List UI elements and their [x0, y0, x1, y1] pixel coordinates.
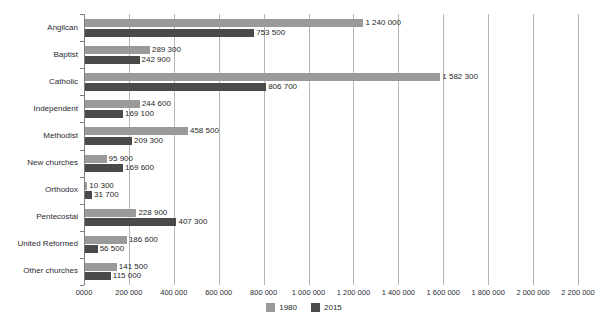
- bar-value-label: 115 000: [113, 272, 141, 280]
- x-tick-label: 400 000: [160, 288, 187, 297]
- bar-independent-1980: [85, 100, 140, 108]
- category-tick: [80, 14, 84, 15]
- category-label-united-reformed: United Reformed: [18, 239, 78, 249]
- x-tick-label: 1 000 000: [292, 288, 325, 297]
- category-tick: [80, 177, 84, 178]
- gridline: [488, 14, 489, 285]
- x-tick-label: 1 800 000: [471, 288, 504, 297]
- x-tick-label: 1 400 000: [382, 288, 415, 297]
- gridline: [578, 14, 579, 285]
- category-label-methodist: Methodist: [43, 131, 78, 141]
- category-label-other-churches: Other churches: [23, 266, 78, 276]
- x-tick-label: 200 000: [115, 288, 142, 297]
- category-tick: [80, 95, 84, 96]
- bar-value-label: 407 300: [178, 218, 207, 226]
- bar-value-label: 186 600: [129, 236, 158, 244]
- x-tick-label: 2 000 000: [516, 288, 549, 297]
- category-label-new-churches: New churches: [27, 158, 78, 168]
- bar-catholic-2015: [85, 83, 266, 91]
- chart-legend: 19802015: [0, 303, 608, 312]
- x-tick-label: 600 000: [205, 288, 232, 297]
- bar-anglican-1980: [85, 19, 363, 27]
- bar-catholic-1980: [85, 73, 440, 81]
- gridline: [353, 14, 354, 285]
- bar-baptist-2015: [85, 56, 140, 64]
- legend-swatch-icon: [311, 303, 320, 312]
- bar-value-label: 242 900: [142, 56, 171, 64]
- bar-anglican-2015: [85, 29, 254, 37]
- bar-value-label: 10 300: [89, 182, 113, 190]
- category-label-independent: Independent: [34, 104, 79, 114]
- category-tick: [80, 41, 84, 42]
- bar-baptist-1980: [85, 46, 150, 54]
- legend-entry-1980[interactable]: 1980: [266, 303, 297, 312]
- bar-value-label: 141 500: [119, 263, 148, 271]
- bar-value-label: 1 582 300: [442, 73, 478, 81]
- bar-pentecostal-2015: [85, 218, 176, 226]
- bar-value-label: 209 300: [134, 137, 163, 145]
- bar-methodist-1980: [85, 127, 188, 135]
- bar-other-churches-2015: [85, 272, 111, 280]
- gridline: [219, 14, 220, 285]
- gridline: [174, 14, 175, 285]
- category-tick: [80, 204, 84, 205]
- bar-value-label: 244 600: [142, 100, 171, 108]
- bar-value-label: 169 600: [125, 164, 154, 172]
- bar-new-churches-2015: [85, 164, 123, 172]
- bar-value-label: 56 500: [100, 245, 124, 253]
- bar-value-label: 753 500: [256, 29, 285, 37]
- category-tick: [80, 285, 84, 286]
- bar-value-label: 169 100: [125, 110, 154, 118]
- category-label-catholic: Catholic: [49, 77, 78, 87]
- category-tick: [80, 258, 84, 259]
- bar-orthodox-2015: [85, 191, 92, 199]
- gridline: [309, 14, 310, 285]
- legend-label: 1980: [279, 303, 297, 312]
- x-tick-label: 1 600 000: [427, 288, 460, 297]
- bar-other-churches-1980: [85, 263, 117, 271]
- bar-independent-2015: [85, 110, 123, 118]
- bar-value-label: 1 240 000: [365, 19, 401, 27]
- gridline: [533, 14, 534, 285]
- x-tick-label: 800 000: [250, 288, 277, 297]
- bar-value-label: 806 700: [268, 83, 297, 91]
- category-tick: [80, 68, 84, 69]
- chart-title: [0, 0, 608, 5]
- legend-label: 2015: [324, 303, 342, 312]
- category-tick: [80, 150, 84, 151]
- bar-united-reformed-1980: [85, 236, 127, 244]
- bar-orthodox-1980: [85, 182, 87, 190]
- category-label-anglican: Anglican: [47, 23, 78, 33]
- chart-container: 1 240 000753 500289 300242 9001 582 3008…: [0, 0, 608, 323]
- gridline: [264, 14, 265, 285]
- category-label-pentecostal: Pentecostal: [36, 212, 78, 222]
- legend-swatch-icon: [266, 303, 275, 312]
- bar-methodist-2015: [85, 137, 132, 145]
- bar-united-reformed-2015: [85, 245, 98, 253]
- bar-value-label: 31 700: [94, 191, 118, 199]
- bar-value-label: 228 900: [138, 209, 167, 217]
- bar-value-label: 95 900: [109, 155, 133, 163]
- bar-value-label: 289 300: [152, 46, 181, 54]
- bar-pentecostal-1980: [85, 209, 136, 217]
- category-tick: [80, 231, 84, 232]
- x-tick-label: 1 200 000: [337, 288, 370, 297]
- x-tick-label: 0000: [76, 288, 93, 297]
- category-label-baptist: Baptist: [54, 50, 78, 60]
- category-label-orthodox: Orthodox: [45, 185, 78, 195]
- gridline: [443, 14, 444, 285]
- category-tick: [80, 122, 84, 123]
- legend-entry-2015[interactable]: 2015: [311, 303, 342, 312]
- bar-value-label: 458 500: [190, 127, 219, 135]
- plot-area: 1 240 000753 500289 300242 9001 582 3008…: [84, 14, 578, 285]
- bar-new-churches-1980: [85, 155, 107, 163]
- x-tick-label: 2 200 000: [561, 288, 594, 297]
- gridline: [398, 14, 399, 285]
